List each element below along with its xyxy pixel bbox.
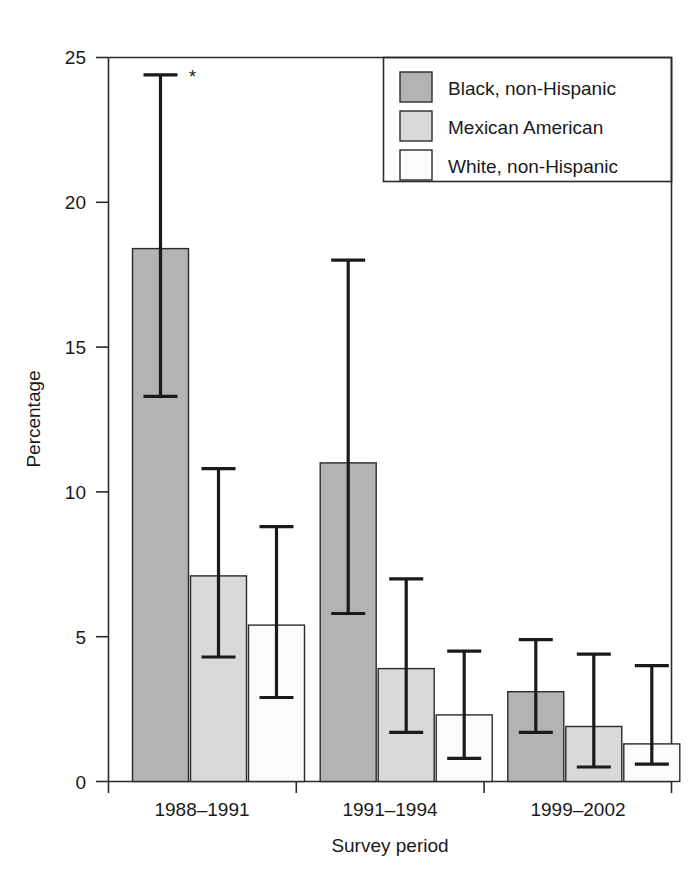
legend-label-white-non-hispanic: White, non-Hispanic	[448, 156, 618, 177]
annotations-layer: *	[189, 67, 196, 87]
chart-figure: 25 20 15 10 5 0 Percentage 1988–1991 199…	[0, 0, 696, 886]
legend-swatch-black-non-hispanic	[400, 72, 432, 102]
y-tick-label-15: 15	[65, 337, 86, 358]
legend-swatch-mexican-american	[400, 111, 432, 141]
x-tick-label-1991-1994: 1991–1994	[342, 799, 438, 820]
y-tick-label-20: 20	[65, 192, 86, 213]
bar-chart-with-error-bars: 25 20 15 10 5 0 Percentage 1988–1991 199…	[0, 0, 696, 886]
y-axis-title: Percentage	[23, 370, 44, 467]
x-tick-label-1988-1991: 1988–1991	[154, 799, 249, 820]
x-axis-title: Survey period	[331, 835, 448, 856]
y-tick-label-5: 5	[75, 627, 86, 648]
y-tick-label-25: 25	[65, 47, 86, 68]
legend-label-mexican-american: Mexican American	[448, 117, 603, 138]
y-tick-label-10: 10	[65, 482, 86, 503]
significance-asterisk: *	[189, 67, 196, 87]
y-tick-label-0: 0	[75, 772, 86, 793]
x-tick-label-1999-2002: 1999–2002	[530, 799, 625, 820]
legend-label-black-non-hispanic: Black, non-Hispanic	[448, 78, 616, 99]
legend-swatch-white-non-hispanic	[400, 150, 432, 180]
